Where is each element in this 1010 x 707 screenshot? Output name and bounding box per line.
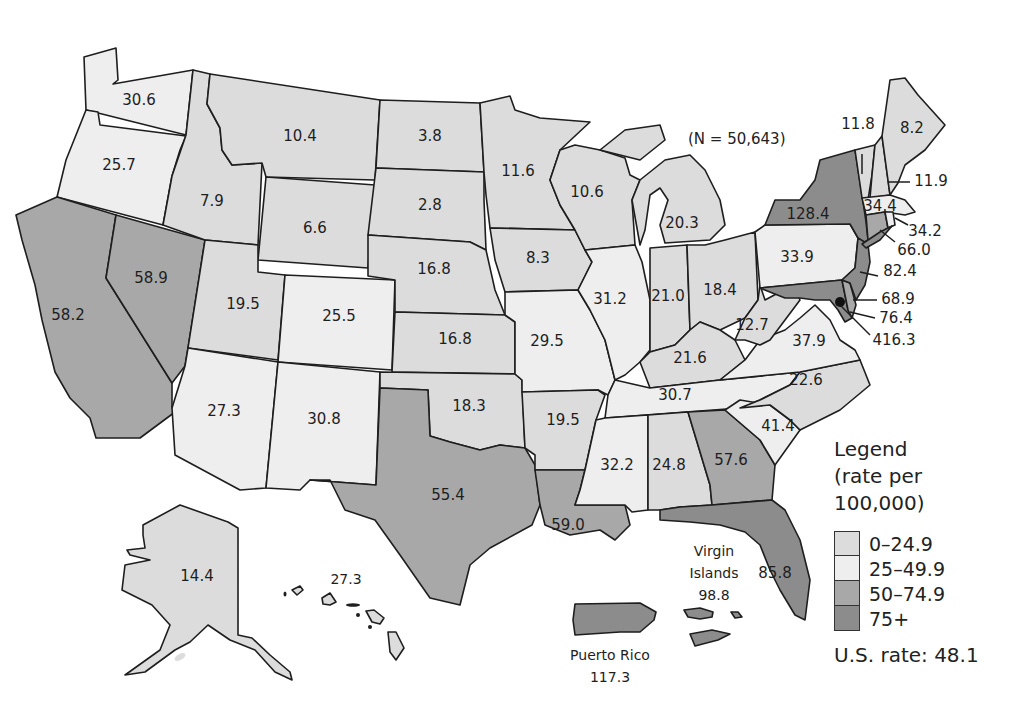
- label-wy: 6.6: [303, 219, 327, 237]
- label-vi-name-2: Islands: [690, 565, 739, 581]
- label-ar: 19.5: [546, 411, 579, 429]
- label-ca: 58.2: [51, 306, 84, 324]
- label-in: 21.0: [651, 287, 684, 305]
- legend-title: Legend (rate per 100,000): [834, 436, 1010, 517]
- label-ky: 21.6: [673, 349, 706, 367]
- legend-item: 75+: [834, 606, 1010, 631]
- label-vi-name-1: Virgin: [694, 543, 734, 559]
- label-ak: 14.4: [180, 567, 213, 585]
- aleutian-islands: [48, 651, 187, 694]
- label-ne: 16.8: [417, 260, 450, 278]
- label-ri: 34.2: [908, 222, 941, 240]
- label-az: 27.3: [207, 402, 240, 420]
- label-nv: 58.9: [134, 269, 167, 287]
- legend: Legend (rate per 100,000) 0–24.9 25–49.9…: [834, 436, 1010, 667]
- label-al: 24.8: [652, 456, 685, 474]
- legend-swatch: [834, 531, 860, 556]
- label-oh: 18.4: [703, 281, 736, 299]
- label-tn: 30.7: [658, 386, 691, 404]
- legend-label: 50–74.9: [869, 583, 945, 605]
- state-ak: [122, 505, 292, 680]
- label-id: 7.9: [200, 192, 224, 210]
- label-vi-value: 98.8: [698, 587, 729, 603]
- label-mn: 11.6: [501, 162, 534, 180]
- legend-items: 0–24.9 25–49.9 50–74.9 75+: [834, 531, 1010, 631]
- label-co: 25.5: [322, 307, 355, 325]
- state-hi: [284, 586, 405, 660]
- label-la: 59.0: [551, 516, 584, 534]
- label-hi: 27.3: [330, 571, 361, 587]
- label-me: 8.2: [900, 119, 924, 137]
- label-nm: 30.8: [307, 410, 340, 428]
- label-pa: 33.9: [780, 248, 813, 266]
- legend-label: 75+: [869, 608, 909, 630]
- label-ok: 18.3: [452, 397, 485, 415]
- legend-item: 50–74.9: [834, 581, 1010, 606]
- legend-label: 0–24.9: [869, 533, 933, 555]
- territory-vi: [684, 608, 742, 646]
- legend-item: 0–24.9: [834, 531, 1010, 556]
- label-ma: 34.4: [863, 197, 896, 215]
- label-pr-value: 117.3: [590, 669, 630, 685]
- legend-title-line3: 100,000): [834, 490, 1010, 517]
- label-il: 31.2: [593, 290, 626, 308]
- legend-swatch: [834, 606, 860, 631]
- label-nj: 82.4: [883, 262, 916, 280]
- label-ga: 57.6: [714, 451, 747, 469]
- label-nh: 11.9: [914, 172, 947, 190]
- label-md: 76.4: [879, 309, 912, 327]
- territory-pr: [573, 603, 656, 635]
- legend-item: 25–49.9: [834, 556, 1010, 581]
- legend-title-line1: Legend: [834, 436, 1010, 463]
- label-wv: 12.7: [735, 316, 768, 334]
- label-pr-name: Puerto Rico: [570, 647, 650, 663]
- label-sd: 2.8: [418, 196, 442, 214]
- label-tx: 55.4: [431, 486, 464, 504]
- us-rate: U.S. rate: 48.1: [834, 643, 1010, 667]
- label-ks: 16.8: [438, 330, 471, 348]
- label-va: 37.9: [792, 332, 825, 350]
- label-nc: 22.6: [789, 371, 822, 389]
- label-wi: 10.6: [570, 183, 603, 201]
- label-fl: 85.8: [758, 564, 791, 582]
- label-dc: 416.3: [873, 331, 916, 349]
- label-ut: 19.5: [226, 295, 259, 313]
- label-wa: 30.6: [122, 91, 155, 109]
- label-de: 68.9: [881, 290, 914, 308]
- label-sc: 41.4: [761, 417, 794, 435]
- legend-swatch: [834, 581, 860, 606]
- label-ct: 66.0: [897, 241, 930, 259]
- legend-swatch: [834, 556, 860, 581]
- label-mo: 29.5: [530, 332, 563, 350]
- label-ia: 8.3: [526, 249, 550, 267]
- label-mi: 20.3: [665, 214, 698, 232]
- label-ny: 128.4: [787, 205, 830, 223]
- legend-title-line2: (rate per: [834, 463, 1010, 490]
- state-fl: [660, 500, 810, 620]
- label-ms: 32.2: [600, 456, 633, 474]
- legend-label: 25–49.9: [869, 558, 945, 580]
- label-nd: 3.8: [418, 127, 442, 145]
- label-mt: 10.4: [283, 127, 316, 145]
- label-vt: 11.8: [841, 115, 874, 133]
- label-or: 25.7: [102, 156, 135, 174]
- sample-size-note: (N = 50,643): [688, 130, 786, 148]
